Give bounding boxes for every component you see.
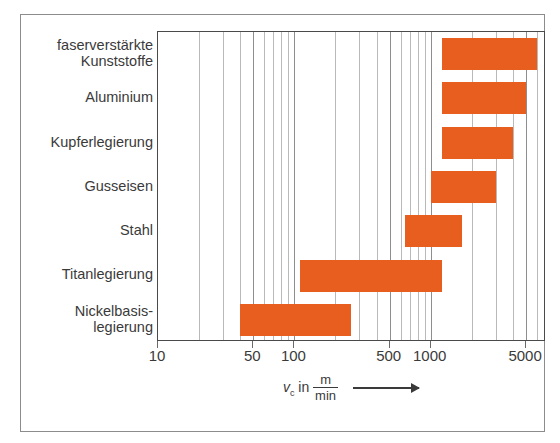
category-label: Titanlegierung xyxy=(3,266,153,283)
category-label: Kupferlegierung xyxy=(3,134,153,151)
bar-4 xyxy=(431,171,496,203)
category-label-column: faserverstärkte KunststoffeAluminiumKupf… xyxy=(21,15,157,325)
x-axis-title: vc in m min xyxy=(157,373,545,403)
category-label: faserverstärkte Kunststoffe xyxy=(3,37,153,70)
x-tick-label: 500 xyxy=(376,347,401,364)
gridline xyxy=(273,32,274,340)
velocity-symbol: vc xyxy=(283,379,295,395)
x-tick-label: 100 xyxy=(281,347,306,364)
gridline xyxy=(359,32,360,340)
category-label: Nickelbasis- legierung xyxy=(3,303,153,336)
axis-title-text: vc in m min xyxy=(283,373,338,403)
gridline xyxy=(390,32,391,340)
bar-1 xyxy=(442,38,537,70)
gridline xyxy=(199,32,200,340)
category-label: Gusseisen xyxy=(3,178,153,195)
category-label: Stahl xyxy=(3,222,153,239)
gridline xyxy=(281,32,282,340)
x-tick-label: 10 xyxy=(149,347,166,364)
bar-5 xyxy=(405,215,462,247)
axis-title-in: in xyxy=(298,379,309,395)
gridline xyxy=(294,32,295,340)
gridline xyxy=(425,32,426,340)
unit-fraction: m min xyxy=(313,373,338,403)
gridline xyxy=(537,32,538,340)
gridline xyxy=(418,32,419,340)
gridline xyxy=(377,32,378,340)
bar-3 xyxy=(442,127,513,159)
gridline xyxy=(526,32,527,340)
category-label: Aluminium xyxy=(3,89,153,106)
gridline xyxy=(240,32,241,340)
gridline xyxy=(288,32,289,340)
bar-2 xyxy=(442,82,527,114)
gridline xyxy=(223,32,224,340)
plot-area xyxy=(157,31,545,341)
gridline xyxy=(410,32,411,340)
bar-6 xyxy=(300,260,442,292)
chart-figure: faserverstärkte KunststoffeAluminiumKupf… xyxy=(20,14,545,432)
x-tick-label: 5000 xyxy=(508,347,541,364)
unit-numerator: m xyxy=(318,373,333,386)
gridline xyxy=(335,32,336,340)
unit-denominator: min xyxy=(313,389,338,402)
gridline xyxy=(496,32,497,340)
axis-direction-arrow-icon xyxy=(353,387,419,389)
x-tick-label: 1000 xyxy=(413,347,446,364)
gridline xyxy=(253,32,254,340)
gridline xyxy=(401,32,402,340)
gridline xyxy=(264,32,265,340)
x-axis: 105010050010005000 xyxy=(157,341,545,357)
gridline xyxy=(513,32,514,340)
bar-7 xyxy=(240,304,351,336)
x-tick-label: 50 xyxy=(244,347,261,364)
